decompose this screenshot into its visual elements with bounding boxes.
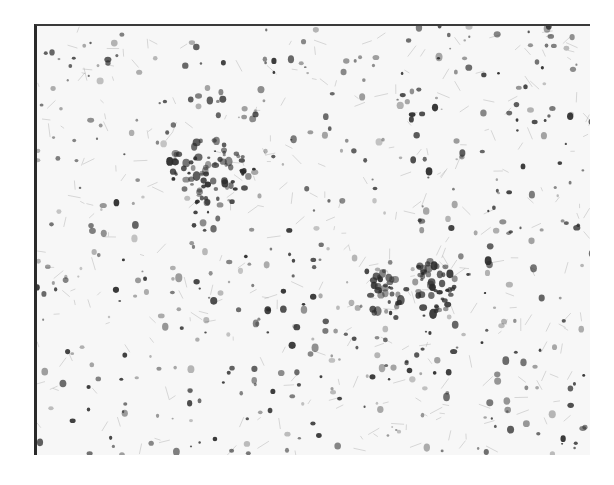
histology-micrograph [34, 24, 590, 455]
cell-field [37, 26, 590, 455]
